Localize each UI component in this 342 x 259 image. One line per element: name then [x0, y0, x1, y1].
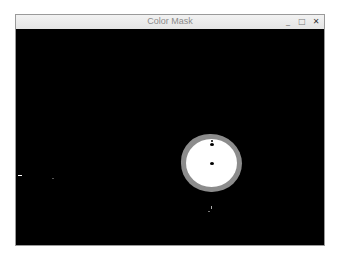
window-controls: _ □ ✕: [284, 17, 320, 26]
mask-image-canvas: [16, 29, 324, 245]
color-mask-window: Color Mask _ □ ✕: [15, 14, 325, 246]
maximize-button[interactable]: □: [298, 17, 306, 26]
title-bar[interactable]: Color Mask _ □ ✕: [16, 15, 324, 30]
noise-speck: [52, 178, 54, 179]
noise-speck: [208, 211, 210, 212]
close-button[interactable]: ✕: [312, 17, 320, 26]
minimize-button[interactable]: _: [284, 17, 292, 26]
noise-speck: [211, 206, 212, 209]
noise-speck: [18, 175, 22, 176]
mask-hole: [210, 143, 214, 146]
mask-hole: [210, 162, 214, 165]
mask-hole: [211, 140, 213, 142]
window-title: Color Mask: [16, 16, 324, 26]
